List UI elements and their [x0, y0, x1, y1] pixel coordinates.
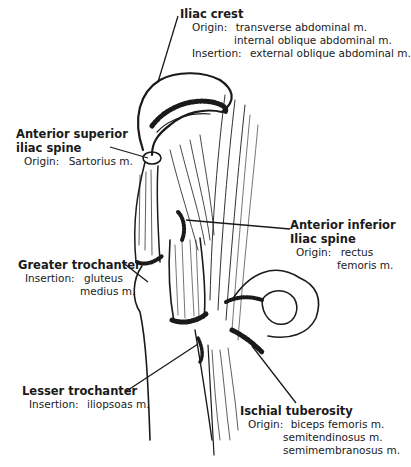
label-title: Ischial tuberosity [240, 404, 400, 418]
label-prefix: Origin: [24, 155, 59, 167]
label-title: Anterior superior [16, 127, 133, 141]
pubis-outline [232, 270, 319, 337]
label-text: rectus [341, 246, 374, 258]
ischial-tuberosity-band [232, 330, 262, 352]
label-anterior-inferior-iliac-spine: Anterior inferior Iliac spine Origin: re… [290, 218, 396, 272]
label-prefix: Insertion: [192, 47, 242, 59]
leader-iliac-crest [158, 16, 178, 82]
leader-ischial-tuberosity [252, 346, 296, 403]
label-text: semimembranosus m. [283, 444, 400, 456]
label-iliac-crest: Iliac crest Origin: transverse abdominal… [180, 7, 411, 60]
label-title: Iliac crest [180, 7, 411, 21]
label-prefix: Insertion: [29, 398, 79, 410]
ilium-outline [138, 73, 232, 155]
label-text: internal oblique abdominal m. [234, 34, 392, 46]
label-text: biceps femoris m. [291, 418, 385, 430]
label-text: gluteus [84, 272, 123, 284]
label-title: Iliac spine [290, 232, 396, 246]
label-text: semitendinosus m. [283, 431, 382, 443]
label-prefix: Origin: [248, 418, 283, 430]
label-text: femoris m. [337, 259, 393, 271]
label-title: Anterior inferior [290, 218, 396, 232]
aiis-attachment [178, 212, 184, 240]
label-text: transverse abdominal m. [236, 21, 368, 33]
label-text: external oblique abdominal m. [250, 47, 411, 59]
label-text: Sartorius m. [69, 155, 133, 167]
label-lesser-trochanter: Lesser trochanter Insertion: iliopsoas m… [22, 384, 150, 411]
obturator-foramen [262, 291, 297, 325]
label-ischial-tuberosity: Ischial tuberosity Origin: biceps femori… [240, 404, 400, 457]
label-title: Greater trochanter [18, 258, 141, 272]
label-prefix: Origin: [192, 21, 227, 33]
label-prefix: Insertion: [25, 272, 75, 284]
label-title: iliac spine [16, 141, 133, 155]
label-anterior-superior-iliac-spine: Anterior superior iliac spine Origin: Sa… [16, 127, 133, 168]
label-prefix: Origin: [296, 246, 331, 258]
label-text: medius m. [80, 285, 135, 297]
label-text: iliopsoas m. [87, 398, 150, 410]
label-title: Lesser trochanter [22, 384, 150, 398]
label-greater-trochanter: Greater trochanter Insertion: gluteus me… [18, 258, 141, 298]
